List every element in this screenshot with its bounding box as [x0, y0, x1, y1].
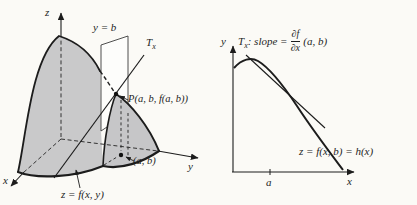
point-ab-label: (a, b): [133, 156, 156, 167]
tick-a-label: a: [266, 177, 272, 188]
right-x-axis-label: x: [347, 176, 352, 187]
tangent-label-sub: x: [152, 42, 156, 51]
tangent-line-Tx-2d: [246, 55, 325, 128]
y-axis-label: y: [188, 161, 193, 172]
plane-label: y = b: [93, 22, 116, 33]
right-y-axis-label: y: [221, 36, 226, 47]
slope-equals-text: : slope =: [248, 35, 288, 47]
fraction-arguments: (a, b): [303, 36, 327, 47]
curve-label: z = f(x, b) = h(x): [299, 146, 373, 157]
figure-canvas: [0, 0, 417, 205]
slope-annotation-prefix: Tx: slope =: [238, 36, 288, 47]
x-axis-label: x: [3, 175, 8, 186]
partial-derivative-fraction: ∂f ∂x: [291, 28, 301, 54]
point-P: [114, 92, 118, 96]
partial-derivative-figure: z x y y = b Tx P(a, b, f(a, b)) (a, b) z…: [0, 0, 417, 205]
y-axis: [158, 151, 198, 158]
point-ab: [119, 153, 123, 157]
tangent-label-3d: Tx: [146, 37, 156, 48]
fraction-denominator: ∂x: [291, 42, 300, 54]
slope-annotation: Tx: slope = ∂f ∂x (a, b): [238, 28, 327, 54]
surface-label: z = f(x, y): [61, 189, 104, 200]
fraction-numerator: ∂f: [291, 28, 301, 42]
x-axis: [11, 172, 24, 186]
point-P-label: P(a, b, f(a, b)): [128, 94, 188, 105]
z-axis-label: z: [45, 7, 49, 18]
